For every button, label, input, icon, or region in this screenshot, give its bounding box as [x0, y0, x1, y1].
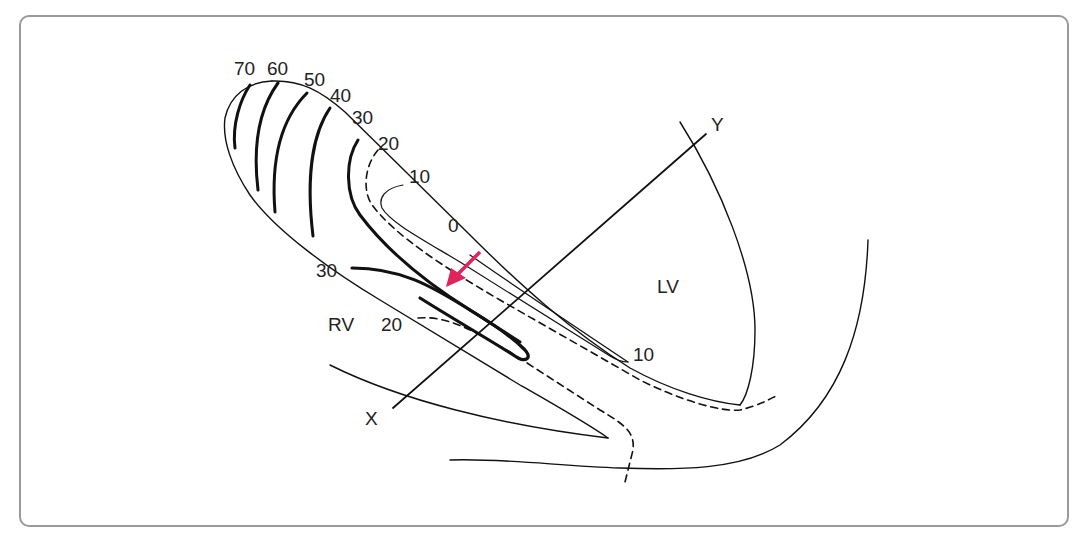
- label-axis-y: Y: [711, 114, 724, 135]
- label-rv: RV: [328, 314, 354, 335]
- lv-free-wall: [680, 122, 755, 405]
- label-20: 20: [378, 133, 399, 154]
- label-50: 50: [304, 69, 325, 90]
- label-70: 70: [234, 58, 255, 79]
- label-lv: LV: [657, 276, 679, 297]
- septum-upper-edge: [272, 81, 740, 405]
- axis-line: [393, 134, 706, 408]
- label-60: 60: [267, 58, 288, 79]
- label-axis-x: X: [365, 408, 378, 429]
- label-30: 30: [352, 107, 373, 128]
- label-10: 10: [409, 166, 430, 187]
- label-rv-20: 20: [381, 314, 402, 335]
- label-40: 40: [330, 85, 351, 106]
- label-rv-30: 30: [316, 260, 337, 281]
- isobar-40: [310, 108, 330, 236]
- label-lv-10: 10: [633, 344, 654, 365]
- septum-diagram: 70 60 50 40 30 20 10 0 30 20 10 RV LV X …: [0, 0, 1087, 545]
- label-0: 0: [448, 215, 459, 236]
- isobar-50: [274, 93, 307, 212]
